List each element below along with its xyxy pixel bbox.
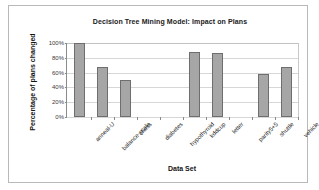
y-axis-tickmark	[65, 58, 67, 59]
chart-figure: Decision Tree Mining Model: Impact on Pl…	[0, 0, 318, 190]
y-axis-tickmark	[65, 43, 67, 44]
x-axis-tickmark	[206, 117, 229, 120]
bar-shuttle	[258, 74, 269, 117]
y-axis-tickmark	[65, 73, 67, 74]
x-tick-label-shuttle: shuttle	[278, 121, 295, 138]
chart-title: Decision Tree Mining Model: Impact on Pl…	[39, 18, 301, 26]
x-axis-tickmark	[275, 117, 298, 120]
bar-chess	[120, 80, 131, 117]
x-axis-tickmark	[91, 117, 114, 120]
y-axis-title: Percentage of plans changed	[29, 27, 37, 137]
x-tick-label-letter: letter	[231, 121, 245, 135]
bar-slot	[68, 43, 91, 117]
bar-vehicle	[281, 67, 292, 117]
y-axis-tick-label: 100%	[42, 40, 64, 46]
x-axis-tickmark	[114, 117, 137, 120]
x-tick-label-parity5+5: parity5+5	[257, 121, 279, 143]
y-axis-tickmark	[65, 117, 67, 118]
x-tick-label-chess: chess	[138, 121, 153, 136]
figure-frame: Decision Tree Mining Model: Impact on Pl…	[8, 5, 308, 183]
bar-slot	[229, 43, 252, 117]
y-axis-tick-label: 80%	[42, 55, 64, 61]
x-axis-tickmark	[252, 117, 275, 120]
bar-kddcup	[189, 52, 200, 117]
y-axis-tick-label: 20%	[42, 99, 64, 105]
y-axis-tickmark	[65, 102, 67, 103]
x-axis-tickmarks	[68, 117, 298, 120]
x-axis-tickmark	[68, 117, 91, 120]
x-axis-title: Data Set	[64, 165, 300, 172]
bar-slot	[137, 43, 160, 117]
y-axis-tickmark	[65, 87, 67, 88]
bar-balance-scale	[97, 67, 108, 117]
x-axis-tickmark	[229, 117, 252, 120]
x-tick-label-vehicle: vehicle	[302, 121, 318, 138]
bar-slot	[160, 43, 183, 117]
bar-slot	[252, 43, 275, 117]
x-axis-tickmark	[183, 117, 206, 120]
bar-slot	[206, 43, 229, 117]
y-axis-tick-label: 0%	[42, 114, 64, 120]
bar-slot	[91, 43, 114, 117]
x-axis-tick-labels: anneal-Ubalance-scalechessdiabeteshypoth…	[67, 121, 300, 166]
y-axis-tick-label: 40%	[42, 84, 64, 90]
x-tick-label-diabetes: diabetes	[163, 121, 183, 141]
x-tick-label-anneal-U: anneal-U	[94, 121, 115, 142]
bar-series	[68, 43, 298, 117]
bar-letter	[212, 53, 223, 117]
x-axis-tickmark	[160, 117, 183, 120]
bar-slot	[114, 43, 137, 117]
y-axis-tick-label: 60%	[42, 70, 64, 76]
bar-slot	[275, 43, 298, 117]
bar-slot	[183, 43, 206, 117]
bar-anneal-U	[74, 43, 85, 117]
x-axis-tickmark	[137, 117, 160, 120]
plot-area: 0%20%40%60%80%100%	[66, 43, 299, 118]
